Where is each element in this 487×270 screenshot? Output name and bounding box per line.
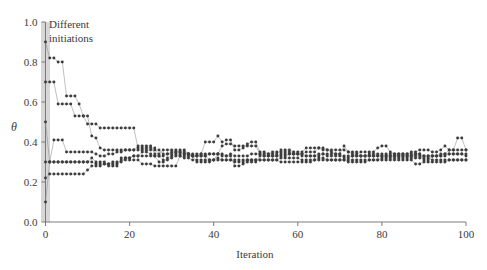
data-point (334, 159, 337, 162)
data-point (376, 155, 379, 158)
data-point (69, 173, 72, 176)
data-point (116, 127, 119, 130)
data-point (132, 155, 135, 158)
y-tick-label: 0.0 (24, 216, 38, 228)
data-point (48, 57, 51, 60)
data-point (427, 161, 430, 164)
data-point (99, 165, 102, 168)
data-point (401, 159, 404, 162)
data-point (427, 149, 430, 152)
data-point (69, 161, 72, 164)
data-point (44, 177, 47, 180)
data-point (423, 155, 426, 158)
data-point (141, 145, 144, 148)
data-point (44, 41, 47, 44)
data-point (448, 159, 451, 162)
data-point (418, 153, 421, 156)
data-point (221, 141, 224, 144)
x-axis-title: Iteration (236, 248, 274, 260)
data-point (275, 155, 278, 158)
data-point (338, 153, 341, 156)
data-point (414, 163, 417, 166)
data-point (204, 141, 207, 144)
chart-figure: 020406080100 0.00.20.40.60.81.0 Iteratio… (0, 0, 487, 270)
data-point (343, 145, 346, 148)
data-point (431, 161, 434, 164)
data-point (275, 159, 278, 162)
data-point (263, 159, 266, 162)
data-point (317, 147, 320, 150)
data-point (116, 151, 119, 154)
data-point (90, 161, 93, 164)
data-point (246, 155, 249, 158)
data-point (65, 173, 68, 176)
data-point (309, 147, 312, 150)
data-point (111, 127, 114, 130)
data-point (435, 161, 438, 164)
data-point (132, 149, 135, 152)
data-point (309, 151, 312, 154)
data-point (414, 157, 417, 160)
data-point (347, 157, 350, 160)
data-point (330, 153, 333, 156)
data-point (372, 155, 375, 158)
data-point (317, 159, 320, 162)
data-point (401, 155, 404, 158)
data-point (444, 161, 447, 164)
data-point (380, 155, 383, 158)
data-point (128, 157, 131, 160)
data-point (86, 123, 89, 126)
data-point (250, 153, 253, 156)
data-point (301, 153, 304, 156)
data-point (57, 61, 60, 64)
data-point (132, 127, 135, 130)
data-point (343, 157, 346, 160)
data-point (237, 145, 240, 148)
data-point (233, 155, 236, 158)
y-axis-title: θ (11, 120, 17, 134)
data-point (69, 103, 72, 106)
data-point (439, 155, 442, 158)
data-point (61, 103, 64, 106)
data-point (460, 153, 463, 156)
data-point (423, 161, 426, 164)
data-point (65, 161, 68, 164)
data-point (208, 153, 211, 156)
data-point (456, 153, 459, 156)
data-point (124, 157, 127, 160)
data-point (250, 145, 253, 148)
data-point (86, 169, 89, 172)
data-point (52, 57, 55, 60)
data-point (305, 155, 308, 158)
data-point (254, 141, 257, 144)
data-point (52, 139, 55, 142)
data-point (166, 153, 169, 156)
data-point (225, 159, 228, 162)
data-point (460, 137, 463, 140)
data-point (456, 159, 459, 162)
data-point (280, 161, 283, 164)
data-point (149, 149, 152, 152)
data-point (385, 155, 388, 158)
data-point (380, 159, 383, 162)
data-point (242, 155, 245, 158)
data-point (237, 155, 240, 158)
data-point (233, 149, 236, 152)
x-tick-label: 100 (458, 228, 475, 240)
data-point (162, 153, 165, 156)
data-point (141, 151, 144, 154)
convergence-scatter-plot: 020406080100 0.00.20.40.60.81.0 Iteratio… (0, 0, 487, 270)
data-point (153, 149, 156, 152)
data-point (44, 81, 47, 84)
data-point (158, 161, 161, 164)
data-point (162, 149, 165, 152)
data-point (334, 149, 337, 152)
data-point (364, 151, 367, 154)
data-point (309, 161, 312, 164)
data-point (284, 155, 287, 158)
data-point (48, 173, 51, 176)
data-point (204, 161, 207, 164)
data-point (137, 149, 140, 152)
data-point (73, 151, 76, 154)
data-point (229, 139, 232, 142)
